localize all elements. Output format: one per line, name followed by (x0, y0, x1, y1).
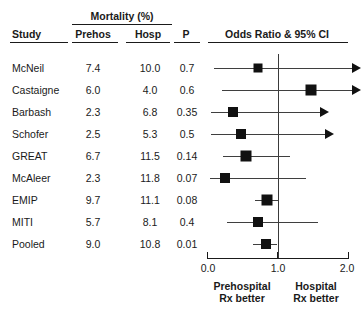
row-p-value: 0.35 (177, 106, 197, 118)
row-hosp-value: 8.1 (143, 216, 158, 228)
confidence-interval-line (211, 134, 325, 135)
row-hosp-value: 4.0 (143, 84, 158, 96)
right-caption-line1: Hospital (295, 280, 336, 292)
point-estimate-box (236, 129, 246, 139)
row-hosp-value: 5.3 (143, 128, 158, 140)
left-caption-line1: Prehospital (213, 280, 270, 292)
row-prehos-value: 7.4 (86, 62, 101, 74)
x-axis-tick-label-1: 1.0 (271, 262, 286, 274)
row-p-value: 0.14 (177, 150, 197, 162)
row-prehos-value: 6.0 (86, 84, 101, 96)
row-study-label: Schofer (12, 128, 48, 140)
row-study-label: Barbash (12, 106, 51, 118)
point-estimate-box (253, 64, 262, 73)
confidence-interval-line (211, 112, 320, 113)
row-hosp-value: 11.5 (140, 150, 160, 162)
confidence-interval-line (227, 222, 319, 223)
row-study-label: McAleer (12, 172, 51, 184)
left-caption-line2: Rx better (219, 292, 265, 304)
row-prehos-value: 2.5 (86, 128, 101, 140)
x-axis-tick-left (207, 252, 208, 259)
row-p-value: 0.08 (177, 194, 197, 206)
x-axis-tick-center (277, 252, 278, 259)
right-caption-line2: Rx better (293, 292, 339, 304)
row-study-label: Pooled (12, 238, 45, 250)
row-prehos-value: 9.0 (86, 238, 101, 250)
row-hosp-value: 10.0 (140, 62, 160, 74)
row-p-value: 0.6 (180, 84, 195, 96)
row-prehos-value: 9.7 (86, 194, 101, 206)
point-estimate-box (240, 151, 251, 162)
ci-right-arrowhead (352, 85, 361, 95)
row-study-label: MITI (12, 216, 33, 228)
x-axis-tick-right (348, 252, 349, 259)
row-prehos-value: 5.7 (86, 216, 101, 228)
ci-right-arrowhead (325, 129, 334, 139)
ci-right-arrowhead (320, 107, 329, 117)
row-p-value: 0.07 (177, 172, 197, 184)
row-study-label: GREAT (12, 150, 47, 162)
row-prehos-value: 6.7 (86, 150, 101, 162)
point-estimate-box (261, 195, 272, 206)
row-p-value: 0.5 (180, 128, 195, 140)
row-p-value: 0.01 (177, 238, 197, 250)
confidence-interval-line (223, 156, 290, 157)
point-estimate-box (305, 85, 316, 96)
row-p-value: 0.7 (180, 62, 195, 74)
row-study-label: McNeil (12, 62, 44, 74)
row-hosp-value: 11.1 (140, 194, 160, 206)
x-axis-tick-label-0: 0.0 (201, 262, 216, 274)
point-estimate-box (261, 239, 271, 249)
row-p-value: 0.4 (180, 216, 195, 228)
confidence-interval-line (222, 90, 352, 91)
point-estimate-box (253, 217, 263, 227)
point-estimate-box (228, 107, 238, 117)
row-hosp-value: 11.8 (140, 172, 160, 184)
row-prehos-value: 2.3 (86, 172, 101, 184)
forest-plot-figure: Mortality (%) Study Prehos Hosp P Odds R… (0, 0, 363, 311)
x-axis-tick-label-2: 2.0 (340, 262, 355, 274)
row-study-label: Castaigne (12, 84, 59, 96)
point-estimate-box (220, 173, 230, 183)
confidence-interval-line (214, 68, 351, 69)
ci-right-arrowhead (352, 63, 361, 73)
row-study-label: EMIP (12, 194, 38, 206)
row-hosp-value: 10.8 (140, 238, 160, 250)
row-hosp-value: 6.8 (143, 106, 158, 118)
row-prehos-value: 2.3 (86, 106, 101, 118)
